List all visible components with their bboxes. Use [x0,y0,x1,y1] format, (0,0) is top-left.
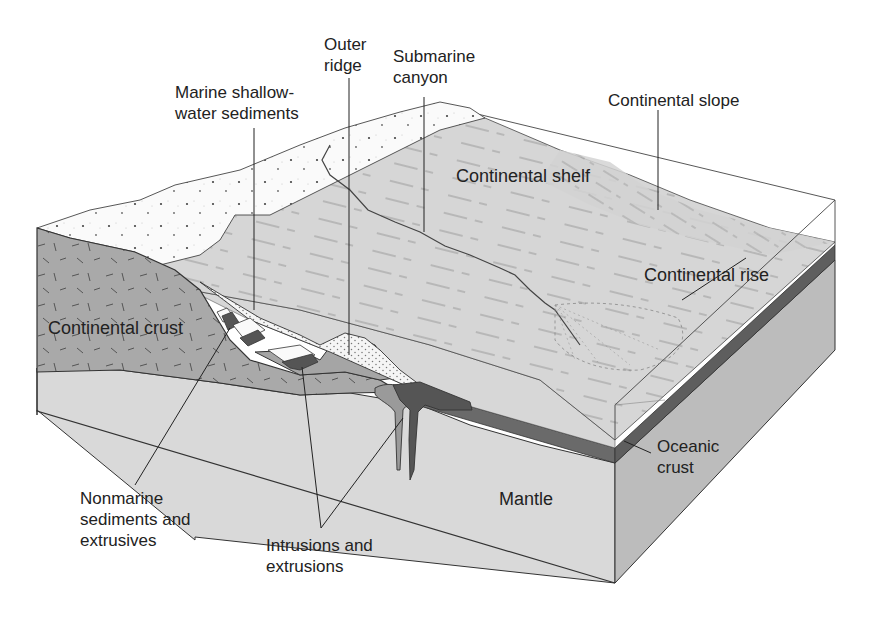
label-continental-slope: Continental slope [608,90,739,111]
label-continental-crust: Continental crust [48,318,183,339]
label-nonmarine-sediments: Nonmarine sediments and extrusives [80,488,191,551]
label-continental-shelf: Continental shelf [456,166,590,187]
label-submarine-canyon: Submarine canyon [393,46,475,88]
label-marine-shallow-water-sediments: Marine shallow- water sediments [175,82,299,124]
label-intrusions-and-extrusions: Intrusions and extrusions [266,535,373,577]
label-mantle: Mantle [499,489,553,510]
label-outer-ridge: Outer ridge [324,34,367,76]
label-oceanic-crust: Oceanic crust [657,436,719,478]
label-continental-rise: Continental rise [644,265,769,286]
